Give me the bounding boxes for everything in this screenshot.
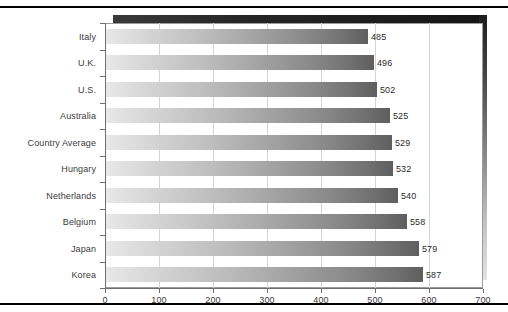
x-axis-line — [105, 288, 483, 289]
x-axis-tick — [213, 289, 214, 293]
x-axis-tick-label: 500 — [355, 295, 395, 305]
x-axis-tick — [429, 289, 430, 293]
bar — [106, 214, 407, 229]
bar — [106, 55, 374, 70]
category-label: Italy — [79, 32, 96, 42]
x-axis-tick-label: 0 — [85, 295, 125, 305]
x-axis-tick-label: 400 — [301, 295, 341, 305]
x-axis-tick-label: 700 — [463, 295, 503, 305]
bar-chart: 485496502525529532540558579587 ItalyU.K.… — [0, 12, 508, 300]
bar-value-label: 525 — [393, 111, 408, 121]
category-label: Japan — [71, 244, 96, 254]
bar-value-label: 502 — [380, 85, 395, 95]
bar — [106, 82, 377, 97]
x-axis-tick — [267, 289, 268, 293]
bar — [106, 241, 419, 256]
bar — [106, 161, 393, 176]
bar-value-label: 532 — [396, 164, 411, 174]
bar-value-label: 540 — [401, 191, 416, 201]
x-axis-tick-label: 300 — [247, 295, 287, 305]
bar — [106, 108, 390, 123]
x-axis-tick-label: 200 — [193, 295, 233, 305]
category-label: Belgium — [63, 217, 96, 227]
bar-value-label: 485 — [371, 32, 386, 42]
bar — [106, 267, 423, 282]
bar — [106, 29, 368, 44]
category-label: Australia — [60, 111, 96, 121]
bar-value-label: 529 — [395, 138, 410, 148]
bar — [106, 135, 392, 150]
x-axis-tick — [321, 289, 322, 293]
x-axis-tick-label: 600 — [409, 295, 449, 305]
category-label: Netherlands — [46, 191, 96, 201]
x-axis-tick — [105, 289, 106, 293]
category-label: U.K. — [78, 58, 96, 68]
bar — [106, 188, 398, 203]
figure-container: 485496502525529532540558579587 ItalyU.K.… — [0, 0, 508, 312]
category-label: Korea — [71, 270, 96, 280]
figure-top-rule — [0, 6, 508, 8]
category-label: Hungary — [61, 164, 96, 174]
x-axis-tick — [483, 289, 484, 293]
bar-value-label: 496 — [377, 58, 392, 68]
category-label: Country Average — [28, 138, 96, 148]
bar-value-label: 587 — [426, 270, 441, 280]
x-axis-tick — [159, 289, 160, 293]
plot-frame-top-shadow — [113, 15, 487, 23]
x-axis-tick — [375, 289, 376, 293]
category-label: U.S. — [78, 85, 96, 95]
bar-value-label: 558 — [410, 217, 425, 227]
bar-value-label: 579 — [422, 244, 437, 254]
x-axis-tick-label: 100 — [139, 295, 179, 305]
